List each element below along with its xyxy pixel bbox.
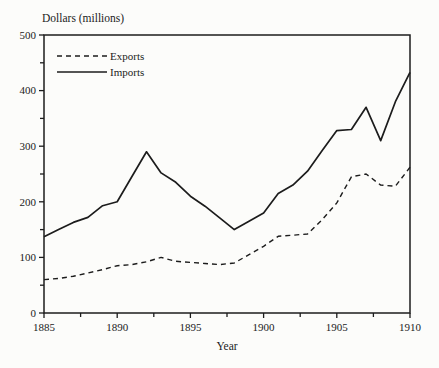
chart-figure: 0100200300400500188518901895190019051910… (0, 0, 439, 368)
y-axis-tick-label: 200 (20, 196, 37, 208)
x-axis-tick-label: 1910 (399, 321, 422, 333)
imports-line (44, 72, 410, 237)
y-axis-tick-label: 400 (20, 84, 37, 96)
legend-label-exports: Exports (110, 51, 144, 62)
x-axis-tick-label: 1900 (253, 321, 276, 333)
legend-item-exports: Exports (57, 48, 144, 64)
y-axis-tick-label: 500 (20, 29, 37, 41)
legend-label-imports: Imports (110, 67, 144, 78)
y-axis-tick-label: 0 (31, 307, 37, 319)
imports-solid-line-icon (57, 70, 107, 74)
x-axis-tick-label: 1895 (179, 321, 202, 333)
exports-dashed-line-icon (57, 54, 107, 58)
y-axis-title: Dollars (millions) (42, 12, 124, 24)
x-axis-title: Year (44, 340, 410, 352)
legend: Exports Imports (57, 48, 144, 80)
x-axis-tick-label: 1885 (33, 321, 56, 333)
x-axis-tick-label: 1890 (106, 321, 129, 333)
y-axis-tick-label: 100 (20, 251, 37, 263)
x-axis-tick-label: 1905 (326, 321, 349, 333)
y-axis-tick-label: 300 (20, 140, 37, 152)
legend-item-imports: Imports (57, 64, 144, 80)
